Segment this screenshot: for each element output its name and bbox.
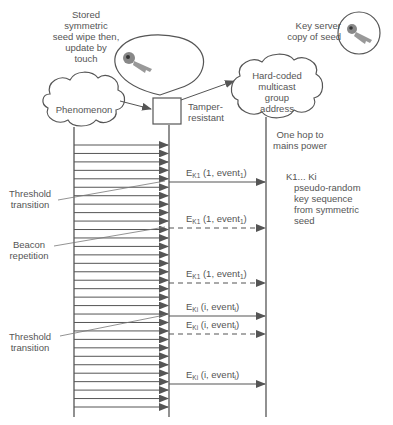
label-line: Beacon (4, 239, 54, 250)
threshold-label-2: Threshold transition (4, 331, 56, 353)
message-label: EKi (i, eventi) (186, 301, 239, 315)
label-line: mains power (270, 140, 330, 151)
label-line: Stored (48, 9, 124, 20)
label-line: symmetric (48, 20, 124, 31)
label-line: Tamper- (188, 101, 224, 112)
label-line: Key server (281, 20, 341, 31)
label-line: Threshold (4, 331, 56, 342)
stored-seed-label: Stored symmetric seed wipe then, update … (48, 9, 124, 64)
tamper-label: Tamper- resistant (188, 101, 224, 123)
label-line: transition (4, 342, 56, 353)
label-line: update by (48, 42, 124, 53)
message-label: EK1 (1, event1) (186, 268, 247, 282)
key-server-circle (338, 12, 380, 54)
message-label: EKi (i, eventi) (186, 319, 239, 333)
label-line: One hop to (270, 129, 330, 140)
label-line: transition (4, 199, 56, 210)
one-hop-label: One hop to mains power (270, 129, 330, 151)
phenomenon-cloud (43, 72, 125, 126)
label-line: from symmetric (294, 204, 361, 215)
key-sequence-label: K1... Ki pseudo-random key sequence from… (286, 171, 361, 226)
label-line: address (244, 103, 310, 114)
label-line: key sequence (294, 193, 361, 204)
message-label: EK1 (1, event1) (186, 167, 247, 181)
label-line: touch (48, 53, 124, 64)
label-line: copy of seed (281, 31, 341, 42)
label-line: repetition (4, 250, 54, 261)
label-line: seed wipe then, (48, 31, 124, 42)
stored-seed-bubble (115, 35, 204, 95)
beacon-label: Beacon repetition (4, 239, 54, 261)
label-line: group (244, 92, 310, 103)
label-line: Hard-coded (244, 70, 310, 81)
label-line: resistant (188, 112, 224, 123)
tamper-resistant-box (153, 98, 181, 124)
label-line: Threshold (4, 188, 56, 199)
phenomenon-label: Phenomenon (50, 104, 118, 115)
sample-arrows (74, 145, 168, 407)
label-line: seed (294, 215, 361, 226)
message-label: EK1 (1, event1) (186, 213, 247, 227)
label-line: multicast (244, 81, 310, 92)
key-server-label: Key server copy of seed (281, 20, 341, 42)
label-line: K1... Ki (286, 171, 361, 182)
label-line: pseudo-random (294, 182, 361, 193)
threshold-label-1: Threshold transition (4, 188, 56, 210)
phenomenon-to-device-arrow (120, 101, 151, 109)
message-label: EKi (i, eventi) (186, 369, 239, 383)
multicast-label: Hard-coded multicast group address (244, 70, 310, 114)
threshold-pointer-2 (60, 315, 165, 336)
